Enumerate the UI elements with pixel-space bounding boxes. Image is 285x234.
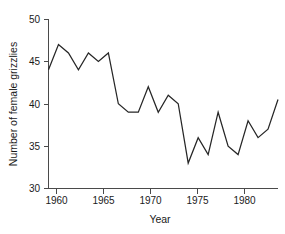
y-tick-label-35: 35 bbox=[29, 141, 41, 152]
x-axis-title: Year bbox=[149, 213, 171, 225]
y-tick-label-30: 30 bbox=[29, 183, 41, 194]
x-tick-label-1975: 1975 bbox=[186, 195, 209, 206]
y-tick-label-40: 40 bbox=[29, 99, 41, 110]
grizzly-count-line bbox=[49, 44, 279, 163]
y-tick-label-45: 45 bbox=[29, 56, 41, 67]
y-tick-labels: 50 45 40 35 30 bbox=[29, 14, 41, 194]
y-axis-title: Number of female grizzlies bbox=[7, 42, 19, 166]
x-tick-marks bbox=[57, 189, 245, 194]
y-tick-label-50: 50 bbox=[29, 14, 41, 25]
grizzly-population-line-chart: 50 45 40 35 30 1960 1965 1970 1975 1980 … bbox=[0, 0, 285, 234]
x-tick-label-1980: 1980 bbox=[233, 195, 256, 206]
x-tick-label-1960: 1960 bbox=[45, 195, 68, 206]
chart-figure: 50 45 40 35 30 1960 1965 1970 1975 1980 … bbox=[0, 0, 285, 234]
x-tick-label-1965: 1965 bbox=[92, 195, 115, 206]
y-tick-marks bbox=[44, 20, 49, 189]
x-tick-labels: 1960 1965 1970 1975 1980 bbox=[45, 195, 256, 206]
x-tick-label-1970: 1970 bbox=[139, 195, 162, 206]
